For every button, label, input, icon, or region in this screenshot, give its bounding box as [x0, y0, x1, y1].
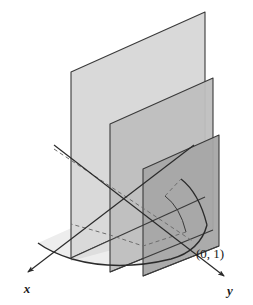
figure-container: x y (0, 1): [0, 0, 253, 305]
axis-y-label: y: [225, 283, 233, 298]
axis-x-label: x: [23, 281, 31, 296]
point-label-0-1: (0, 1): [196, 246, 224, 261]
three-d-surface-diagram: x y (0, 1): [0, 0, 253, 305]
